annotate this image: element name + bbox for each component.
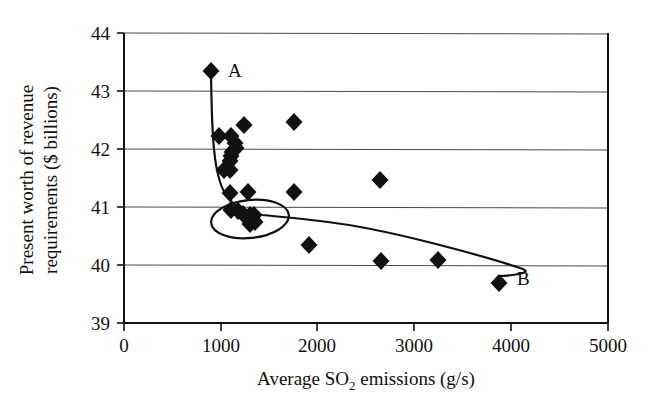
y-axis-title-line2: requirements ($ billions) <box>40 86 62 274</box>
y-tick-label-44: 44 <box>91 23 111 44</box>
y-tick-label-39: 39 <box>91 313 110 334</box>
x-tick-label-2000: 2000 <box>298 335 336 356</box>
chart-figure: 44 43 42 41 40 39 0 1000 2000 3000 4000 … <box>0 0 656 414</box>
x-tick-label-3000: 3000 <box>395 335 433 356</box>
label-point-a: A <box>228 60 242 81</box>
x-tick-label-5000: 5000 <box>589 335 627 356</box>
x-tick-label-0: 0 <box>119 335 129 356</box>
y-tick-label-43: 43 <box>91 81 110 102</box>
x-axis-title-pre: Average SO <box>257 368 349 389</box>
y-tick-label-40: 40 <box>91 255 110 276</box>
scatter-plot-svg: 44 43 42 41 40 39 0 1000 2000 3000 4000 … <box>0 0 656 414</box>
y-tick-label-41: 41 <box>91 197 110 218</box>
y-axis-title-line1: Present worth of revenue <box>16 85 37 275</box>
x-tick-label-4000: 4000 <box>492 335 530 356</box>
x-tick-label-1000: 1000 <box>202 335 240 356</box>
x-axis-title-post: emissions (g/s) <box>356 368 475 390</box>
label-point-b: B <box>517 268 530 289</box>
y-tick-label-42: 42 <box>91 139 110 160</box>
